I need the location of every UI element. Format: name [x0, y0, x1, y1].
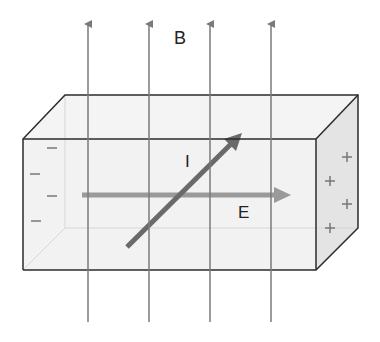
slab-top-face — [23, 95, 358, 139]
label-current: I — [185, 152, 190, 171]
hall-effect-diagram: B I E — [0, 0, 380, 342]
label-electric-field: E — [238, 203, 249, 222]
label-magnetic-field: B — [174, 28, 186, 48]
